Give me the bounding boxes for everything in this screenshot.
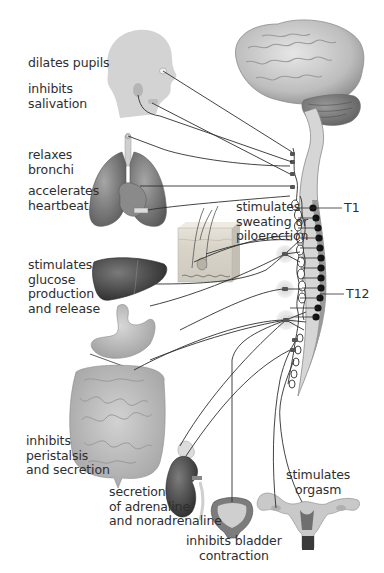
label-inhibits-peristalsis: inhibits peristalsis and secretion bbox=[26, 434, 110, 478]
sympathetic-nervous-system-diagram: dilates pupils inhibits salivation relax… bbox=[0, 0, 384, 573]
label-dilates-pupils: dilates pupils bbox=[28, 56, 109, 71]
skin-illustration bbox=[178, 206, 240, 282]
brain-illustration bbox=[235, 20, 363, 126]
lungs-heart-illustration bbox=[90, 134, 167, 227]
label-relaxes-bronchi: relaxes bronchi bbox=[28, 148, 74, 177]
spinal-segment-t12: T12 bbox=[346, 286, 370, 301]
spinal-segment-t1: T1 bbox=[344, 200, 360, 215]
head-illustration bbox=[107, 30, 176, 118]
liver-illustration bbox=[93, 258, 167, 301]
label-inhibits-salivation: inhibits salivation bbox=[28, 82, 87, 111]
label-secretion-adrenaline: secretion of adrenaline and noradrenalin… bbox=[109, 485, 222, 529]
label-inhibits-bladder: inhibits bladder contraction bbox=[186, 534, 282, 563]
label-stimulates-sweating: stimulates sweating or piloerection bbox=[236, 200, 308, 244]
label-accelerates-heartbeat: accelerates heartbeat bbox=[28, 184, 99, 213]
label-stimulates-orgasm: stimulates orgasm bbox=[286, 468, 350, 497]
ganglion-dots bbox=[282, 252, 298, 352]
label-stimulates-glucose: stimulates glucose production and releas… bbox=[28, 258, 100, 316]
